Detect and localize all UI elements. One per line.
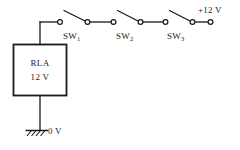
switch-2-label: SW2: [116, 32, 133, 41]
switch-1-blade: [64, 11, 85, 22]
supply-voltage-label: +12 V: [198, 6, 222, 15]
switch-2-label-text: SW: [116, 31, 130, 41]
ground-hatch-3: [36, 131, 41, 137]
switch-3-label: SW3: [167, 32, 184, 41]
ground-voltage-label: 0 V: [48, 127, 62, 136]
relay-component-box: [14, 45, 67, 96]
switch-1-label-text: SW: [63, 31, 77, 41]
switch-1-label-index: 1: [77, 35, 80, 42]
switch-3-label-index: 3: [181, 35, 184, 42]
switch-1-terminal-left: [58, 20, 63, 25]
switch-2-terminal-left: [111, 20, 116, 25]
relay-rating-label: 12 V: [13, 72, 67, 82]
switch-3-terminal-left: [163, 20, 168, 25]
relay-name-label: RLA: [13, 58, 67, 68]
switch-2-blade: [118, 11, 139, 22]
switch-3-terminal-right: [190, 20, 195, 25]
ground-hatch-4: [41, 131, 46, 137]
switch-3-blade: [170, 11, 191, 22]
ground-hatch-2: [32, 131, 37, 137]
supply-terminal: [208, 20, 213, 25]
ground-hatch-1: [27, 131, 32, 137]
switch-2-terminal-right: [138, 20, 143, 25]
circuit-diagram-canvas: RLA 12 V SW1 SW2 SW3 +12 V 0 V: [0, 0, 240, 150]
switch-1-label: SW1: [63, 32, 80, 41]
switch-2-label-index: 2: [130, 35, 133, 42]
switch-3-label-text: SW: [167, 31, 181, 41]
switch-1-terminal-right: [85, 20, 90, 25]
